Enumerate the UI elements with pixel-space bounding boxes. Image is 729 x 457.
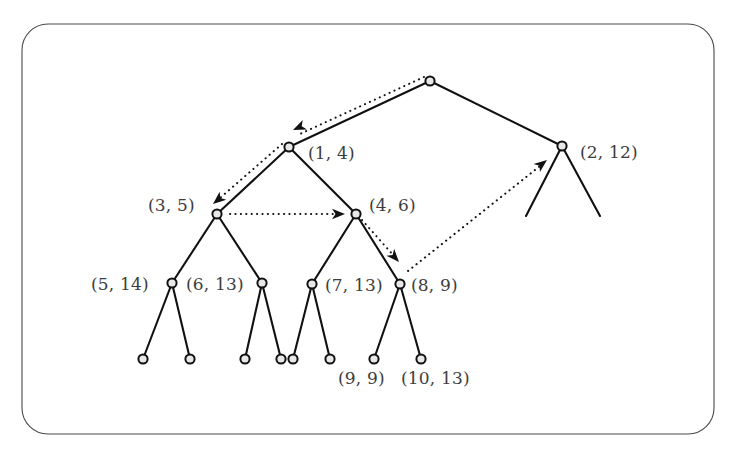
tree-edge: [374, 284, 400, 359]
tree-node-label-n7: (7, 13): [325, 275, 383, 295]
tree-node-circle[interactable]: [276, 354, 285, 363]
tree-edge: [400, 284, 421, 359]
tree-node-n2[interactable]: [557, 141, 566, 150]
tree-edge: [172, 214, 217, 283]
traversal-pointer-arrowhead: [386, 249, 402, 266]
tree-edges-group: [143, 81, 600, 359]
tree-node-circle[interactable]: [351, 209, 360, 218]
tree-node-label-l7: (9, 9): [338, 368, 385, 388]
tree-diagram-figure: (1, 4)(2, 12)(3, 5)(4, 6)(5, 14)(6, 13)(…: [0, 0, 729, 457]
tree-edge: [312, 284, 330, 359]
tree-node-n8[interactable]: [395, 279, 404, 288]
tree-node-circle[interactable]: [325, 354, 334, 363]
tree-node-circle[interactable]: [185, 354, 194, 363]
tree-node-n4[interactable]: [351, 209, 360, 218]
tree-node-root[interactable]: [425, 76, 434, 85]
traversal-pointer-arrowhead: [534, 156, 551, 172]
tree-node-circle[interactable]: [212, 209, 221, 218]
tree-node-l6[interactable]: [325, 354, 334, 363]
tree-edge: [289, 81, 430, 147]
tree-node-l2[interactable]: [185, 354, 194, 363]
tree-node-l5[interactable]: [288, 354, 297, 363]
tree-node-l1[interactable]: [138, 354, 147, 363]
traversal-pointer-line: [408, 166, 540, 271]
tree-edge: [262, 283, 281, 359]
tree-node-circle[interactable]: [167, 278, 176, 287]
tree-node-n5[interactable]: [167, 278, 176, 287]
tree-node-circle[interactable]: [416, 354, 425, 363]
traversal-pointer-arrowhead: [210, 192, 227, 208]
tree-edge: [172, 283, 190, 359]
traversal-pointer-line: [300, 77, 424, 134]
tree-node-n7[interactable]: [307, 279, 316, 288]
tree-node-circle[interactable]: [395, 279, 404, 288]
tree-edge: [312, 214, 356, 284]
tree-node-n3[interactable]: [212, 209, 221, 218]
tree-node-label-n5: (5, 14): [91, 274, 149, 294]
tree-node-circle[interactable]: [557, 141, 566, 150]
tree-node-labels-group: (1, 4)(2, 12)(3, 5)(4, 6)(5, 14)(6, 13)(…: [91, 142, 638, 388]
tree-node-circle[interactable]: [307, 279, 316, 288]
tree-node-circle[interactable]: [284, 142, 293, 151]
tree-node-circle[interactable]: [288, 354, 297, 363]
tree-edge: [526, 146, 562, 216]
tree-node-n1[interactable]: [284, 142, 293, 151]
tree-edge: [293, 284, 312, 359]
tree-node-circle[interactable]: [257, 278, 266, 287]
tree-node-l3[interactable]: [240, 354, 249, 363]
tree-edge: [217, 214, 262, 283]
tree-node-label-l8: (10, 13): [401, 368, 470, 388]
tree-edge: [430, 81, 562, 146]
traversal-pointer-arrowhead: [291, 120, 307, 135]
tree-node-label-n4: (4, 6): [369, 195, 416, 215]
tree-node-l8[interactable]: [416, 354, 425, 363]
tree-node-l4[interactable]: [276, 354, 285, 363]
traversal-pointer-arrowhead: [332, 209, 345, 219]
tree-node-label-n3: (3, 5): [148, 195, 195, 215]
tree-node-circle[interactable]: [138, 354, 147, 363]
tree-edge: [356, 214, 400, 284]
tree-node-circle[interactable]: [425, 76, 434, 85]
tree-node-label-n2: (2, 12): [580, 142, 638, 162]
tree-node-circle[interactable]: [369, 354, 378, 363]
tree-node-circle[interactable]: [240, 354, 249, 363]
tree-edge: [143, 283, 172, 359]
tree-node-label-n6: (6, 13): [186, 274, 244, 294]
tree-node-label-n1: (1, 4): [308, 143, 355, 163]
tree-edge: [217, 147, 289, 214]
tree-edge: [245, 283, 262, 359]
tree-diagram-canvas: (1, 4)(2, 12)(3, 5)(4, 6)(5, 14)(6, 13)(…: [0, 0, 729, 457]
tree-node-n6[interactable]: [257, 278, 266, 287]
tree-node-label-n8: (8, 9): [411, 275, 458, 295]
traversal-pointer-line: [220, 144, 282, 198]
tree-node-l7[interactable]: [369, 354, 378, 363]
